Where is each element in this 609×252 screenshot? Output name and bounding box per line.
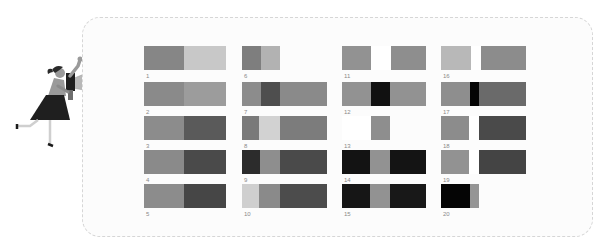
swatch-label: 12 <box>344 109 351 115</box>
swatch-segment <box>390 150 426 174</box>
swatch-label: 14 <box>344 177 351 183</box>
swatch-segment <box>342 46 371 70</box>
swatch-label: 15 <box>344 211 351 217</box>
swatch-segment <box>242 82 261 106</box>
swatch-segment <box>371 82 390 106</box>
swatch-segment <box>144 150 184 174</box>
swatch-segment <box>261 82 280 106</box>
swatch-segment <box>479 116 526 140</box>
swatch-segment <box>441 150 469 174</box>
swatch-label: 19 <box>443 177 450 183</box>
swatch-segment <box>469 150 479 174</box>
swatch-label: 16 <box>443 73 450 79</box>
swatch-segment <box>280 116 327 140</box>
swatch-label: 5 <box>146 211 149 217</box>
swatch-segment <box>242 116 259 140</box>
swatch-segment <box>390 184 426 208</box>
swatch-label: 7 <box>244 109 247 115</box>
swatch-label: 11 <box>344 73 350 79</box>
swatch-segment <box>261 46 280 70</box>
swatch-segment <box>471 46 481 70</box>
swatch-label: 1 <box>146 73 149 79</box>
swatch-segment <box>391 46 426 70</box>
swatch-label: 4 <box>146 177 149 183</box>
swatch-segment <box>259 184 280 208</box>
swatch-segment <box>280 82 327 106</box>
swatch-label: 9 <box>244 177 247 183</box>
swatch-segment <box>242 46 261 70</box>
swatch-segment <box>441 82 470 106</box>
swatch-label: 3 <box>146 143 149 149</box>
swatch-label: 10 <box>244 211 251 217</box>
swatch-segment <box>280 150 327 174</box>
swatch-segment <box>260 150 280 174</box>
swatch-segment <box>370 150 390 174</box>
swatch-segment <box>184 82 226 106</box>
swatch-label: 20 <box>443 211 450 217</box>
swatch-label: 18 <box>443 143 450 149</box>
swatch-segment <box>479 150 526 174</box>
swatch-segment <box>342 82 371 106</box>
swatch-segment <box>470 82 479 106</box>
swatch-segment <box>390 82 426 106</box>
swatch-segment <box>470 184 479 208</box>
swatch-segment <box>144 82 184 106</box>
swatch-segment <box>144 116 184 140</box>
swatch-label: 8 <box>244 143 247 149</box>
swatch-label: 13 <box>344 143 351 149</box>
swatch-segment <box>342 184 370 208</box>
swatch-segment <box>184 150 226 174</box>
swatch-segment <box>370 184 390 208</box>
swatch-segment <box>144 46 184 70</box>
swatch-segment <box>479 82 526 106</box>
swatch-segment <box>184 46 226 70</box>
swatch-segment <box>469 116 479 140</box>
swatch-segment <box>342 150 370 174</box>
swatch-segment <box>371 46 391 70</box>
swatch-segment <box>371 116 390 140</box>
swatch-segment <box>342 116 371 140</box>
swatch-segment <box>242 184 259 208</box>
swatch-segment <box>481 46 526 70</box>
swatch-segment <box>184 184 226 208</box>
swatch-segment <box>441 46 471 70</box>
swatch-segment <box>184 116 226 140</box>
swatch-segment <box>242 150 260 174</box>
swatch-segment <box>259 116 280 140</box>
swatch-segment <box>280 184 327 208</box>
swatch-segment <box>441 184 470 208</box>
swatch-segment <box>144 184 184 208</box>
swatch-label: 17 <box>443 109 450 115</box>
swatch-segment <box>441 116 469 140</box>
swatch-label: 2 <box>146 109 149 115</box>
swatch-label: 6 <box>244 73 247 79</box>
